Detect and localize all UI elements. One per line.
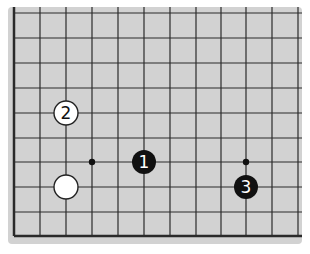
star-point <box>243 159 249 165</box>
white-stone <box>54 175 78 199</box>
star-point <box>89 159 95 165</box>
black-stone-3: 3 <box>234 175 258 199</box>
move-number: 1 <box>139 152 150 172</box>
move-number: 2 <box>61 103 72 123</box>
black-stone-1: 1 <box>132 150 156 174</box>
white-stone-2: 2 <box>54 101 78 125</box>
go-board: 123 <box>0 0 310 254</box>
move-number: 3 <box>241 177 252 197</box>
board-background <box>8 7 302 244</box>
